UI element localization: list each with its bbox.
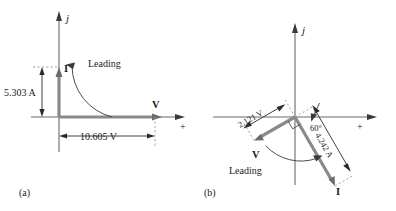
panel-a-caption: (a) [19, 187, 30, 199]
panel-a-phasor-i [56, 67, 63, 117]
panel-a-leading-arc [66, 63, 112, 117]
panel-b-dash-i-tip [335, 175, 353, 186]
panel-b-j-axis-label: j [300, 24, 305, 36]
panel-b-caption: (b) [204, 187, 216, 199]
panel-a-dimension-horizontal-label: 10.605 V [80, 131, 118, 142]
panel-b-dash-v-origin [284, 99, 295, 118]
figure-canvas: j + V I 5.303 A [0, 0, 396, 211]
panel-b-phasor-i-label: I [336, 186, 340, 197]
panel-b-angle-label: 60° [310, 123, 322, 133]
panel-a-phasor-v-label: V [152, 99, 160, 110]
panel-a-dimension-vertical [39, 67, 44, 117]
panel-b-angle-marker [311, 103, 320, 122]
panel-b-phasor-v-label: V [252, 149, 260, 160]
panel-a-leading-label: Leading [88, 58, 121, 69]
phasor-figure: j + V I 5.303 A [0, 0, 396, 211]
panel-b-plus-axis-label: + [357, 121, 363, 132]
panel-b-leading-label: Leading [229, 165, 262, 176]
panel-a-j-axis-label: j [64, 12, 69, 24]
panel-a-dimension-vertical-label: 5.303 A [4, 87, 36, 98]
panel-b: j + V I [204, 23, 377, 199]
panel-a: j + V I 5.303 A [4, 11, 186, 199]
panel-b-phasor-v [254, 117, 295, 141]
panel-a-plus-axis-label: + [180, 121, 186, 132]
panel-b-dash-i-origin [295, 106, 313, 117]
